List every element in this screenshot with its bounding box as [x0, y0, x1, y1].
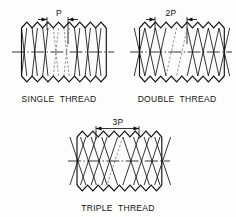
root-profile-double	[140, 76, 225, 82]
root-profile-single	[22, 76, 107, 82]
caption-single-thread: SINGLE THREAD	[0, 94, 118, 104]
crest-profile-double	[140, 22, 225, 28]
dimension-label-single: P	[49, 8, 69, 18]
root-profile-triple	[77, 185, 162, 191]
thread-diagram-page: P	[0, 0, 236, 217]
figure-single-thread: P	[0, 0, 118, 110]
caption-double-thread: DOUBLE THREAD	[118, 94, 236, 104]
dimension-2p	[146, 17, 197, 44]
figure-triple-thread: 3P	[59, 108, 177, 217]
dimension-label-double: 2P	[158, 8, 184, 18]
caption-triple-thread: TRIPLE THREAD	[59, 203, 177, 213]
crest-profile-single	[22, 22, 107, 28]
crest-profile-triple	[77, 131, 162, 137]
dimension-label-triple: 3P	[105, 117, 131, 127]
figure-double-thread: 2P	[118, 0, 236, 110]
